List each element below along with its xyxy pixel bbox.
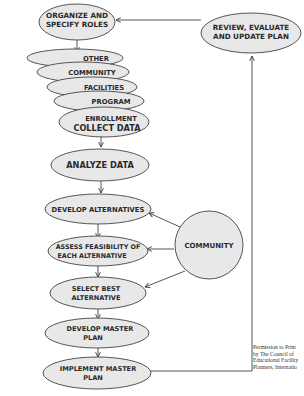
credit-line-3: Educational Facility (253, 357, 304, 364)
organize-label-2: SPECIFY ROLES (46, 20, 108, 29)
community-circle-label: COMMUNITY (184, 242, 234, 250)
node-select-best-alternative: SELECT BEST ALTERNATIVE (50, 277, 146, 309)
node-develop-master-plan: DEVELOP MASTER PLAN (45, 318, 149, 348)
planning-flowchart: ORGANIZE AND SPECIFY ROLES REVIEW, EVALU… (0, 0, 304, 396)
analyze-data-label: ANALYZE DATA (66, 160, 134, 170)
credit-line-4: Planners, Internatio (253, 364, 304, 371)
implement-label-2: PLAN (83, 374, 103, 382)
select-label-2: ALTERNATIVE (72, 294, 121, 302)
credit-line-1: Permission to Print (253, 344, 304, 351)
review-label-1: REVIEW, EVALUATE (213, 23, 290, 32)
node-assess-feasibility: ASSESS FEASIBILITY OF EACH ALTERNATIVE (48, 236, 148, 266)
collect-data-label: COLLECT DATA (73, 123, 141, 133)
develop-master-label-2: PLAN (83, 334, 103, 342)
arrow-community-to-select (145, 271, 185, 287)
credit-line-2: by The Council of (253, 351, 304, 358)
node-community-circle: COMMUNITY (175, 211, 243, 279)
permission-credit-note: Permission to Print by The Council of Ed… (253, 344, 304, 370)
select-label-1: SELECT BEST (72, 285, 121, 293)
node-implement-master-plan: IMPLEMENT MASTER PLAN (43, 357, 151, 389)
enrollment-label: ENROLLMENT (85, 115, 137, 123)
node-analyze-data: ANALYZE DATA (51, 149, 149, 181)
implement-label-1: IMPLEMENT MASTER (60, 365, 136, 373)
arrow-community-to-develop-alt (149, 213, 180, 227)
develop-alternatives-label: DEVELOP ALTERNATIVES (52, 206, 145, 214)
organize-label-1: ORGANIZE AND (46, 11, 108, 20)
data-collection-stack: OTHER COMMUNITY FACILITIES PROGRAM ENROL… (27, 49, 149, 137)
program-label: PROGRAM (92, 98, 131, 106)
assess-label-1: ASSESS FEASIBILITY OF (56, 243, 141, 251)
review-label-2: AND UPDATE PLAN (213, 32, 289, 41)
community-data-label: COMMUNITY (68, 69, 116, 77)
node-enrollment-collect-data: ENROLLMENT COLLECT DATA (59, 107, 149, 137)
develop-master-label-1: DEVELOP MASTER (67, 325, 134, 333)
assess-label-2: EACH ALTERNATIVE (57, 252, 126, 260)
node-review-update-plan: REVIEW, EVALUATE AND UPDATE PLAN (201, 13, 301, 53)
node-organize-roles: ORGANIZE AND SPECIFY ROLES (39, 4, 115, 40)
node-develop-alternatives: DEVELOP ALTERNATIVES (45, 194, 151, 224)
